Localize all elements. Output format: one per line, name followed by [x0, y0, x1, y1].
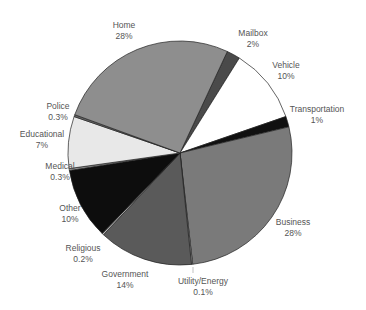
slice-label: Medical	[45, 161, 74, 171]
slice-percent: 28%	[115, 31, 132, 41]
slice-label: Educational	[20, 129, 65, 139]
pie-slices	[68, 41, 292, 265]
slice-label: Government	[102, 269, 149, 279]
slice-label: Police	[46, 101, 69, 111]
slice-label: Home	[113, 20, 136, 30]
slice-percent: 10%	[61, 214, 78, 224]
slice-label: Transportation	[290, 104, 345, 114]
slice-percent: 1%	[311, 115, 324, 125]
slice-percent: 0.3%	[48, 112, 68, 122]
slice-percent: 28%	[284, 228, 301, 238]
slice-percent: 0.2%	[73, 254, 93, 264]
pie-chart: Mailbox2%Vehicle10%Transportation1%Busin…	[0, 0, 366, 310]
slice-percent: 10%	[277, 71, 294, 81]
slice-percent: 0.1%	[193, 287, 213, 297]
slice-percent: 7%	[36, 140, 49, 150]
slice-label: Business	[276, 217, 311, 227]
slice-percent: 0.3%	[50, 172, 70, 182]
slice-percent: 2%	[247, 39, 260, 49]
slice-label: Vehicle	[272, 60, 300, 70]
slice-label: Utility/Energy	[178, 276, 229, 286]
slice-label: Religious	[66, 243, 101, 253]
slice-label: Mailbox	[238, 28, 268, 38]
slice-percent: 14%	[116, 280, 133, 290]
slice-label: Other	[59, 203, 80, 213]
